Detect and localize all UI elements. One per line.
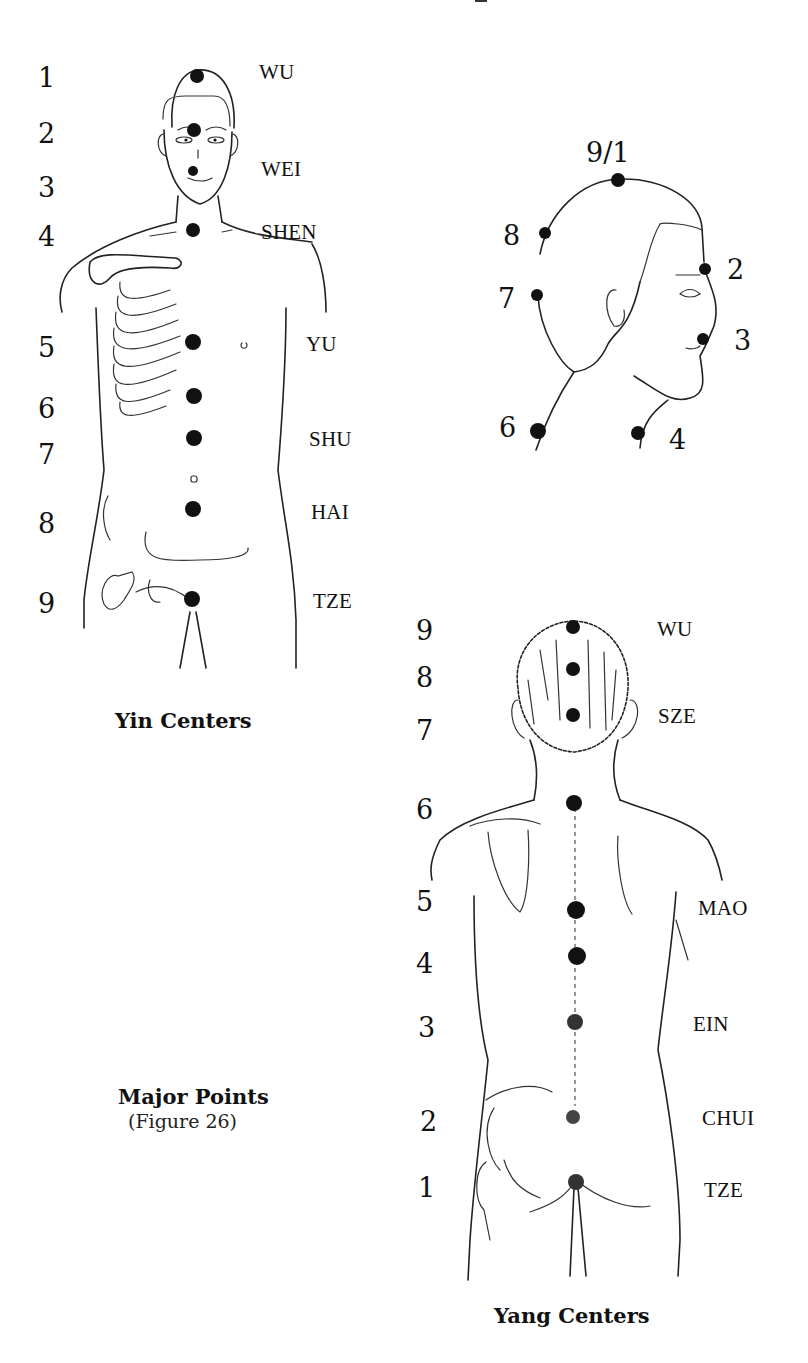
yang-number-8: 8 (416, 664, 433, 691)
yin-label-yu: YU (306, 334, 337, 355)
yang-number-4: 4 (416, 950, 433, 977)
profile-number-6: 6 (499, 414, 516, 441)
yang-number-3: 3 (418, 1014, 435, 1041)
yang-label-ein: EIN (693, 1014, 729, 1035)
yin-label-shu: SHU (309, 429, 352, 450)
figure-title: Major Points (118, 1084, 269, 1109)
yang-label-sze: SZE (658, 706, 696, 727)
yang-number-1: 1 (418, 1174, 435, 1201)
yin-label-tze: TZE (313, 591, 352, 612)
line-art (0, 0, 808, 1363)
yin-number-3: 3 (38, 174, 55, 201)
profile-number-3: 3 (734, 327, 751, 354)
yin-caption: Yin Centers (115, 708, 251, 733)
yang-number-2: 2 (420, 1108, 437, 1135)
yang-label-mao: MAO (698, 898, 748, 919)
profile-number-4: 4 (669, 426, 686, 453)
profile-number-2: 2 (727, 256, 744, 283)
profile-number-8: 8 (503, 222, 520, 249)
yin-number-2: 2 (38, 120, 55, 147)
yin-label-hai: HAI (311, 502, 349, 523)
yang-label-wu: WU (657, 619, 692, 640)
yang-point-dots (566, 620, 586, 1190)
yin-number-5: 5 (38, 334, 55, 361)
yin-number-6: 6 (38, 395, 55, 422)
yin-number-7: 7 (38, 441, 55, 468)
yang-number-9: 9 (416, 617, 433, 644)
yin-label-shen: SHEN (261, 222, 317, 243)
yin-point-dots (184, 69, 204, 607)
yin-number-1: 1 (38, 64, 55, 91)
yin-number-9: 9 (38, 590, 55, 617)
figure-subtitle: (Figure 26) (128, 1110, 237, 1132)
yang-number-7: 7 (416, 717, 433, 744)
yang-number-5: 5 (416, 888, 433, 915)
profile-number-7: 7 (498, 285, 515, 312)
head-profile-illustration (536, 179, 716, 450)
yin-number-4: 4 (38, 223, 55, 250)
profile-number-9-1: 9/1 (586, 139, 629, 166)
yang-number-6: 6 (416, 796, 433, 823)
yang-label-tze: TZE (704, 1180, 743, 1201)
yin-number-8: 8 (38, 510, 55, 537)
yin-label-wei: WEI (261, 159, 301, 180)
yang-caption: Yang Centers (494, 1303, 650, 1328)
yang-label-chui: CHUI (702, 1108, 754, 1129)
yin-label-wu: WU (259, 62, 294, 83)
